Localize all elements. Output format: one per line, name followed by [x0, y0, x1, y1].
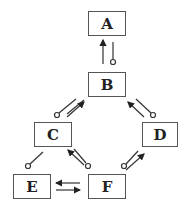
node-d-label: D: [153, 126, 166, 144]
node-b-label: B: [101, 76, 114, 94]
node-d: D: [142, 122, 178, 147]
node-f: F: [88, 174, 126, 199]
edge-d-to-f-line: [126, 151, 138, 164]
edge-c-to-f-circle-icon: [86, 164, 91, 169]
edge-f-to-d-arrow: [126, 154, 144, 170]
node-a-label: A: [101, 15, 113, 33]
edge-b-to-d-circle-icon: [151, 113, 156, 118]
edge-a-to-b-circle-icon: [111, 60, 116, 65]
node-c: C: [34, 122, 72, 147]
node-f-label: F: [102, 178, 113, 196]
edge-b-to-c-circle-icon: [55, 113, 60, 118]
edge-c-to-e-line: [30, 152, 43, 164]
node-e-label: E: [26, 178, 37, 196]
edge-d-to-f-circle-icon: [122, 164, 127, 169]
node-e: E: [13, 174, 51, 199]
edge-c-to-e-circle-icon: [26, 164, 31, 169]
node-a: A: [88, 11, 126, 36]
edge-b-to-c-circle-line: [67, 100, 84, 114]
node-b: B: [88, 72, 126, 97]
node-c-label: C: [47, 126, 59, 144]
